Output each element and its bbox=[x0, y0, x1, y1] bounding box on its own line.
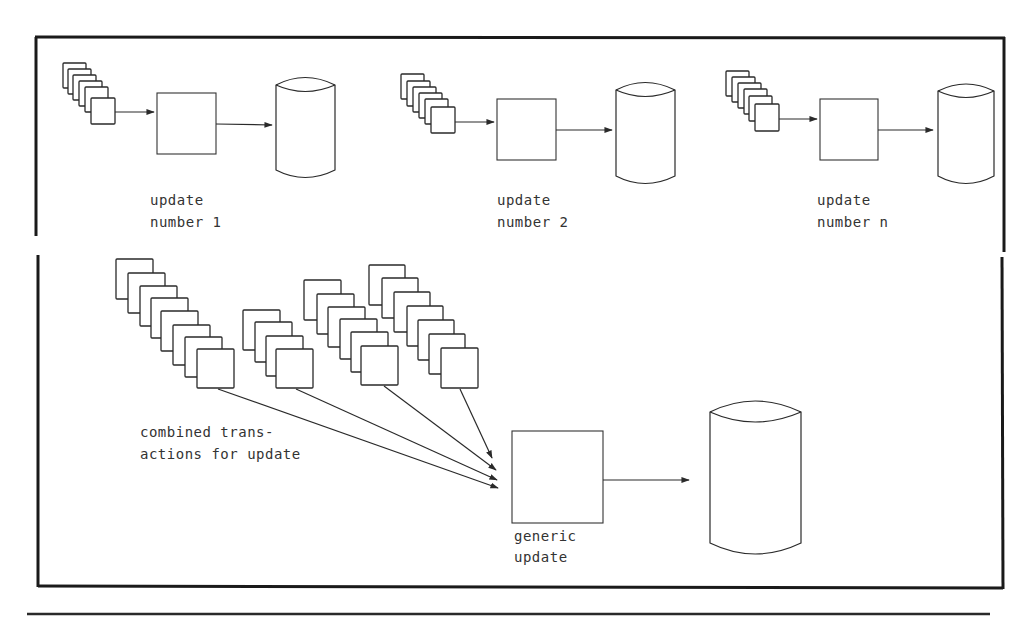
update-process-box bbox=[820, 99, 878, 160]
update-1-label-line2: number 1 bbox=[150, 214, 221, 230]
update-1-label-line1: update bbox=[150, 192, 204, 208]
database-cylinder-icon bbox=[710, 401, 801, 554]
arrow-icon bbox=[384, 386, 496, 470]
update-process-box bbox=[157, 93, 216, 154]
update-2-group: update number 2 bbox=[401, 74, 675, 230]
combined-transaction-stack-2-icon bbox=[243, 310, 313, 388]
transactions-label-line2: actions for update bbox=[140, 446, 301, 462]
database-cylinder-icon bbox=[616, 83, 675, 184]
database-cylinder-icon bbox=[938, 84, 994, 184]
update-n-label-line2: number n bbox=[817, 214, 888, 230]
update-n-label-line1: update bbox=[817, 192, 871, 208]
update-n-group: update number n bbox=[726, 71, 994, 230]
transactions-label-line1: combined trans- bbox=[140, 424, 274, 440]
generic-update-process-box bbox=[512, 431, 603, 523]
combined-transaction-stack-1-icon bbox=[116, 259, 234, 388]
arrow-icon bbox=[460, 389, 492, 458]
generic-update-label-line1: generic bbox=[514, 528, 577, 544]
update-2-label-line2: number 2 bbox=[497, 214, 568, 230]
generic-update-group: combined trans- actions for update gener… bbox=[116, 259, 801, 565]
transaction-card-stack-icon bbox=[401, 74, 455, 133]
database-cylinder-icon bbox=[276, 78, 335, 178]
arrow-icon bbox=[216, 124, 272, 125]
update-2-label-line1: update bbox=[497, 192, 551, 208]
transaction-card-stack-icon bbox=[63, 63, 115, 124]
generic-update-diagram: update number 1 update number 2 bbox=[0, 0, 1036, 621]
transaction-card-stack-icon bbox=[726, 71, 779, 131]
update-1-group: update number 1 bbox=[63, 63, 335, 230]
update-process-box bbox=[497, 99, 556, 160]
generic-update-label-line2: update bbox=[514, 549, 568, 565]
